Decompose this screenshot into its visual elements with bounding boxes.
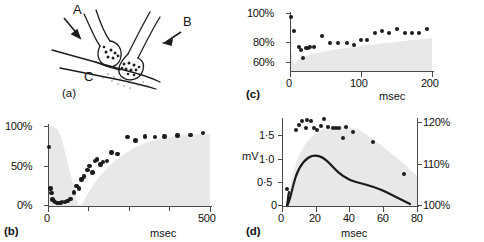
data-point bbox=[175, 133, 179, 137]
panel-d-ytick-1-0 bbox=[278, 159, 283, 160]
panel-b-yticklabel-100: 100% bbox=[5, 120, 32, 132]
arrow-a bbox=[64, 18, 80, 38]
data-point bbox=[85, 168, 89, 172]
panel-c-xticklabel-0: 0 bbox=[286, 77, 292, 89]
data-point bbox=[115, 152, 119, 156]
panel-d-y2ticklabel-110: 110% bbox=[423, 158, 449, 170]
panel-c-yticklabel-80: 80% bbox=[253, 36, 274, 48]
panel-d-ytick-0-5 bbox=[278, 182, 283, 183]
panel-d-yticklabel-0-5: 0·5 bbox=[257, 176, 272, 188]
panel-b-yticklabel-0: 0% bbox=[17, 199, 32, 211]
panel-d-xticklabel-60: 60 bbox=[377, 212, 389, 224]
panel-d-yaxis-title: mV bbox=[242, 150, 259, 162]
panel-d-yticklabel-1-5: 1·5 bbox=[259, 129, 274, 141]
panel-b-xticklabel-500: 500 bbox=[198, 212, 215, 224]
panel-c-yticklabel-60: 60% bbox=[253, 56, 274, 68]
data-point bbox=[125, 135, 129, 139]
diagram-label-b: B bbox=[183, 14, 192, 29]
data-point bbox=[359, 38, 363, 42]
data-point bbox=[285, 187, 289, 191]
panel-b-ytick-100 bbox=[44, 126, 49, 127]
data-point bbox=[371, 140, 375, 144]
panel-d-y2ticklabel-100: 100% bbox=[423, 199, 450, 211]
data-point bbox=[299, 48, 303, 52]
panel-d-y2tick-100 bbox=[417, 205, 422, 206]
panel-d-y2ticklabel-120: 120% bbox=[423, 116, 450, 128]
data-point bbox=[300, 119, 304, 123]
data-point bbox=[143, 134, 147, 138]
arrow-b bbox=[164, 32, 181, 45]
data-point bbox=[410, 31, 414, 35]
panel-d-ytick-0 bbox=[278, 205, 283, 206]
panel-d-xticklabel-40: 40 bbox=[343, 212, 355, 224]
diagram-label-c: C bbox=[84, 69, 93, 84]
panel-c-xaxis-title: msec bbox=[379, 90, 405, 102]
panel-label-a: (a) bbox=[62, 87, 76, 99]
panel-d-x-axis bbox=[282, 206, 419, 207]
panel-b-ytick-0 bbox=[44, 205, 49, 206]
vesicles-terminal-a bbox=[103, 46, 120, 60]
panel-label-b: (b) bbox=[4, 225, 19, 237]
panel-d-y2tick-110 bbox=[417, 164, 422, 165]
data-point bbox=[417, 31, 421, 35]
panel-d-y2-axis bbox=[417, 118, 418, 206]
panel-d-y2tick-120 bbox=[417, 122, 422, 123]
panel-c-ytick-80 bbox=[286, 42, 291, 43]
diagram-label-a: A bbox=[73, 2, 82, 17]
data-point bbox=[297, 123, 301, 127]
data-point bbox=[77, 186, 81, 190]
panel-label-d: (d) bbox=[246, 225, 261, 237]
data-point bbox=[109, 150, 113, 154]
data-point bbox=[309, 119, 313, 123]
data-point bbox=[72, 190, 76, 194]
panel-d-xaxis-title: msec bbox=[341, 227, 367, 239]
data-point bbox=[304, 126, 308, 130]
synapse-drawing bbox=[0, 0, 242, 108]
panel-a-synapse-diagram: A B C (a) bbox=[0, 0, 242, 108]
data-point bbox=[403, 31, 407, 35]
panel-d-xticklabel-20: 20 bbox=[309, 212, 321, 224]
data-point bbox=[341, 136, 345, 140]
panel-c-xticklabel-100: 100 bbox=[350, 77, 367, 89]
data-point bbox=[322, 117, 326, 121]
data-point bbox=[344, 125, 348, 129]
panel-c-xticklabel-200: 200 bbox=[421, 77, 438, 89]
panel-c-yticklabel-100: 100% bbox=[247, 7, 274, 19]
data-point bbox=[90, 170, 94, 174]
data-point bbox=[387, 31, 391, 35]
data-point bbox=[87, 164, 91, 168]
panel-b-ytick-50 bbox=[44, 166, 49, 167]
data-point bbox=[395, 27, 399, 31]
data-point bbox=[48, 186, 52, 190]
panel-label-c: (c) bbox=[246, 88, 260, 100]
panel-b-xtick-minor-2 bbox=[129, 207, 130, 211]
panel-d-chart: 1·5 1·0 0·5 0 mV 120% 110% 100% 0 20 40 … bbox=[242, 108, 484, 242]
data-point bbox=[352, 43, 356, 47]
data-point bbox=[365, 38, 369, 42]
panel-d-yticklabel-0: 0 bbox=[271, 199, 277, 211]
panel-d-yticklabel-1-0: 1·0 bbox=[259, 153, 274, 165]
data-point bbox=[294, 128, 298, 132]
data-point bbox=[162, 134, 166, 138]
data-point bbox=[188, 133, 192, 137]
panel-c-chart: 100% 80% 60% 0 100 200 msec (c) bbox=[242, 0, 484, 108]
data-point bbox=[68, 197, 72, 201]
panel-c-shaded-envelope bbox=[290, 14, 432, 72]
data-point bbox=[326, 125, 330, 129]
panel-d-xticklabel-80: 80 bbox=[411, 212, 423, 224]
data-point bbox=[425, 27, 429, 31]
panel-b-xtick-minor-3 bbox=[169, 207, 170, 211]
panel-c-ytick-60 bbox=[286, 62, 291, 63]
panel-b-yticklabel-50: 50% bbox=[11, 160, 32, 172]
data-point bbox=[337, 126, 341, 130]
panel-d-y-axis bbox=[282, 118, 283, 206]
data-point bbox=[373, 31, 377, 35]
data-point bbox=[319, 124, 323, 128]
data-point bbox=[402, 172, 406, 176]
panel-b-xaxis-title: msec bbox=[150, 227, 176, 239]
panel-b-xtick-minor-1 bbox=[88, 207, 89, 211]
data-point bbox=[133, 138, 137, 142]
panel-d-ytick-1-5 bbox=[278, 135, 283, 136]
data-point bbox=[47, 145, 51, 149]
data-point bbox=[351, 130, 355, 134]
